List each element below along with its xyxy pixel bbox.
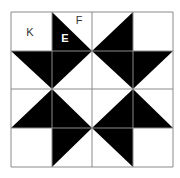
- label-k: K: [26, 26, 34, 38]
- quilt-block-diagram: K F E: [0, 0, 180, 178]
- label-f: F: [76, 14, 83, 26]
- label-e: E: [61, 32, 68, 44]
